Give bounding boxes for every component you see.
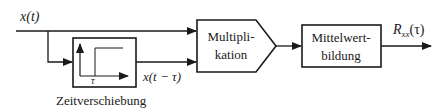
averaging-label-line1: Mittelwert-	[311, 30, 370, 45]
output-label-main: R	[392, 22, 402, 37]
delayed-signal-label: x(t − τ)	[142, 69, 181, 84]
output-label-arg: (τ)	[410, 22, 425, 38]
multiplier-block	[197, 20, 276, 72]
multiplier-label-line2: kation	[215, 47, 248, 62]
averaging-label-line2: bildung	[321, 48, 361, 63]
output-label-sub: xx	[401, 29, 410, 39]
delay-tau-label: τ	[91, 75, 95, 86]
delay-caption: Zeitverschiebung	[56, 93, 147, 108]
signal-line-branch	[48, 31, 72, 62]
input-signal-label: x(t)	[19, 9, 40, 25]
multiplier-label-line1: Multipli-	[208, 29, 255, 44]
block-diagram: x(t) τ Zeitverschiebung x(t − τ) Multipl…	[0, 0, 448, 111]
delay-block	[73, 38, 136, 87]
output-label: Rxx(τ)	[392, 22, 425, 39]
